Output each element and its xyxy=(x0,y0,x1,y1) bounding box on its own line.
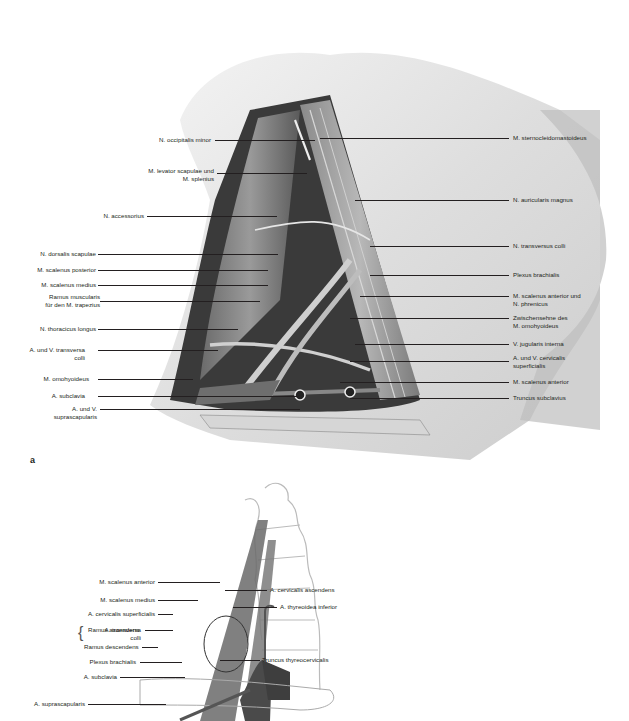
leader-line xyxy=(100,301,260,302)
leader-line xyxy=(158,614,173,615)
label-a-v-cervicalis-superficialis: A. und V. cervicalissuperficialis xyxy=(513,354,565,370)
label-b-ramus-ascendens: Ramus ascendens xyxy=(88,626,139,634)
label-m-scalenus-posterior: M. scalenus posterior xyxy=(37,266,96,274)
leader-line xyxy=(120,677,185,678)
label-m-sternocleidomastoideus: M. sternocleidomastoideus xyxy=(513,134,587,142)
leader-line xyxy=(350,398,509,399)
leader-line xyxy=(360,296,509,297)
leader-line xyxy=(142,647,158,648)
leader-line xyxy=(145,630,173,631)
leader-line xyxy=(320,138,509,139)
label-b-m-scalenus-medius: M. scalenus medius xyxy=(100,596,155,604)
leader-line xyxy=(98,285,268,286)
leader-line xyxy=(98,270,268,271)
leader-line xyxy=(225,590,267,591)
label-ramus-muscularis: Ramus muscularisfür den M. trapezius xyxy=(45,293,100,309)
label-b-ramus-descendens: Ramus descendens xyxy=(84,643,139,651)
leader-line xyxy=(355,344,509,345)
label-n-occipitalis-minor: N. occipitalis minor xyxy=(159,136,211,144)
leader-line xyxy=(220,660,260,661)
label-n-dorsalis-scapulae: N. dorsalis scapulae xyxy=(40,250,96,258)
label-b-a-cervicalis-superficialis: A. cervicalis superficialis xyxy=(88,610,155,618)
label-b-truncus-thyreocervicalis: Truncus thyreocervicalis xyxy=(262,656,328,664)
leader-line xyxy=(98,379,193,380)
label-b-a-subclavia: A. subclavia xyxy=(84,673,117,681)
leader-line xyxy=(98,254,278,255)
label-b-m-scalenus-anterior: M. scalenus anterior xyxy=(99,578,155,586)
leader-line xyxy=(98,396,298,397)
label-m-levator-scapulae: M. levator scapulae undM. splenius xyxy=(148,167,214,183)
leader-line xyxy=(158,600,198,601)
leader-line xyxy=(217,173,307,174)
label-m-scalenus-medius: M. scalenus medius xyxy=(41,281,96,289)
label-b-plexus-brachialis: Plexus brachialis xyxy=(90,658,136,666)
panel-letter-a: a xyxy=(30,455,35,465)
label-b-a-suprascapularis: A. suprascapularis xyxy=(34,700,85,708)
leader-line xyxy=(370,246,509,247)
label-b-a-thyreoidea-inferior: A. thyreoidea inferior xyxy=(280,603,337,611)
leader-line xyxy=(350,361,509,362)
leader-line xyxy=(340,382,509,383)
label-truncus-subclavius: Truncus subclavius xyxy=(513,394,566,402)
label-a-subclavia: A. subclavia xyxy=(52,392,85,400)
label-v-jugularis-interna: V. jugularis interna xyxy=(513,340,564,348)
label-n-thoracicus-longus: N. thoracicus longus xyxy=(40,325,96,333)
leader-line xyxy=(98,350,218,351)
leader-line xyxy=(350,318,509,319)
label-plexus-brachialis: Plexus brachialis xyxy=(513,271,559,279)
leader-line xyxy=(158,582,220,583)
anatomical-figure: N. occipitalis minor M. levator scapulae… xyxy=(0,0,629,721)
brace-bracket: { xyxy=(78,625,83,641)
leader-line xyxy=(98,329,238,330)
leader-line xyxy=(355,200,509,201)
label-a-v-transversa-colli: A. und V. transversacolli xyxy=(30,346,86,362)
leader-line xyxy=(233,607,277,608)
label-n-auricularis-magnus: N. auricularis magnus xyxy=(513,196,573,204)
leader-line xyxy=(100,409,300,410)
label-a-v-suprascapularis: A. und V.suprascapularis xyxy=(54,405,97,421)
label-n-accessorius: N. accessorius xyxy=(103,212,144,220)
label-n-transversus-colli: N. transversus colli xyxy=(513,242,565,250)
leader-line xyxy=(215,140,315,141)
label-m-scalenus-anterior-n-phrenicus: M. scalenus anterior undN. phrenicus xyxy=(513,292,581,308)
label-m-omohyoideus: M. omohyoideus xyxy=(44,375,89,383)
label-m-scalenus-anterior: M. scalenus anterior xyxy=(513,378,569,386)
label-zwischensehne: Zwischensehne desM. omohyoideus xyxy=(513,314,568,330)
label-b-a-cervicalis-ascendens: A. cervicalis ascendens xyxy=(270,586,335,594)
leader-line xyxy=(147,216,277,217)
leader-line xyxy=(140,662,182,663)
leader-line xyxy=(370,275,509,276)
leader-line xyxy=(88,704,166,705)
